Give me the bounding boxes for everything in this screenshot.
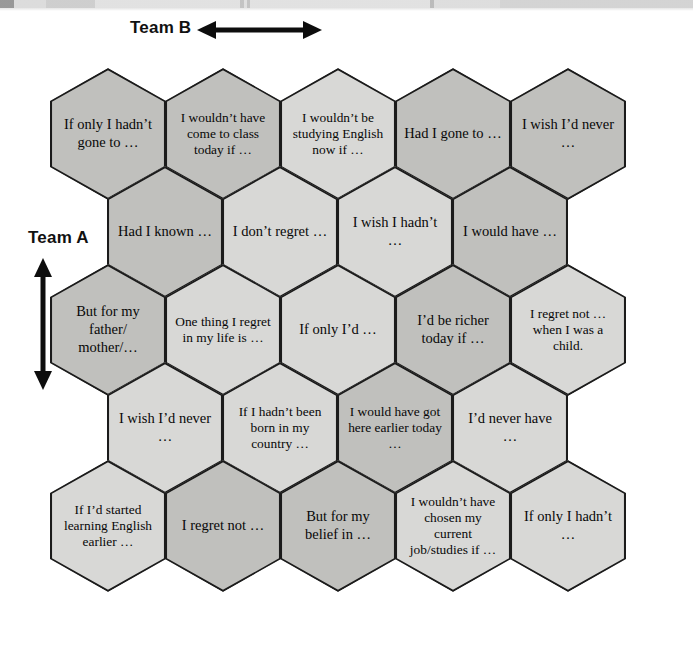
hex-cell-text: I don’t regret …: [233, 223, 327, 241]
hex-cell-text: I wish I’d never …: [116, 410, 214, 445]
hex-cell-text: I regret not … when I was a child.: [519, 306, 617, 353]
hex-cell-text: If I’d started learning English earlier …: [59, 502, 157, 549]
hex-cell-text: If only I’d …: [299, 321, 377, 339]
hex-cell-text: If only I hadn’t gone to …: [59, 116, 157, 151]
hex-cell-text: But for my belief in …: [289, 508, 387, 543]
hex-cell-text: I wouldn’t be studying English now if …: [289, 110, 387, 157]
hexagon-game-board: If only I hadn’t gone to …I wouldn’t hav…: [0, 0, 693, 671]
hex-cell-text: I wouldn’t have come to class today if …: [174, 110, 272, 157]
hex-cell-text: If I hadn’t been born in my country …: [231, 404, 329, 451]
hex-cell-text: I wouldn’t have chosen my current job/st…: [404, 494, 502, 557]
hex-cell-text: I wish I’d never …: [519, 116, 617, 151]
hex-cell-text: But for my father/ mother/…: [59, 303, 157, 356]
hex-cell-text: I would have …: [463, 223, 557, 241]
hex-cell-text: Had I gone to …: [404, 125, 501, 143]
hex-cell-text: I’d be richer today if …: [404, 312, 502, 347]
hex-cell-text: I would have got here earlier today …: [346, 404, 444, 451]
hex-cell-text: I’d never have …: [461, 410, 559, 445]
hex-cell-text: I wish I hadn’t …: [346, 214, 444, 249]
hex-cell-text: Had I known …: [118, 223, 212, 241]
hex-cell-text: One thing I regret in my life is …: [174, 314, 272, 346]
hex-cell-text: I regret not …: [182, 517, 265, 535]
hex-cell-text: If only I hadn’t …: [519, 508, 617, 543]
